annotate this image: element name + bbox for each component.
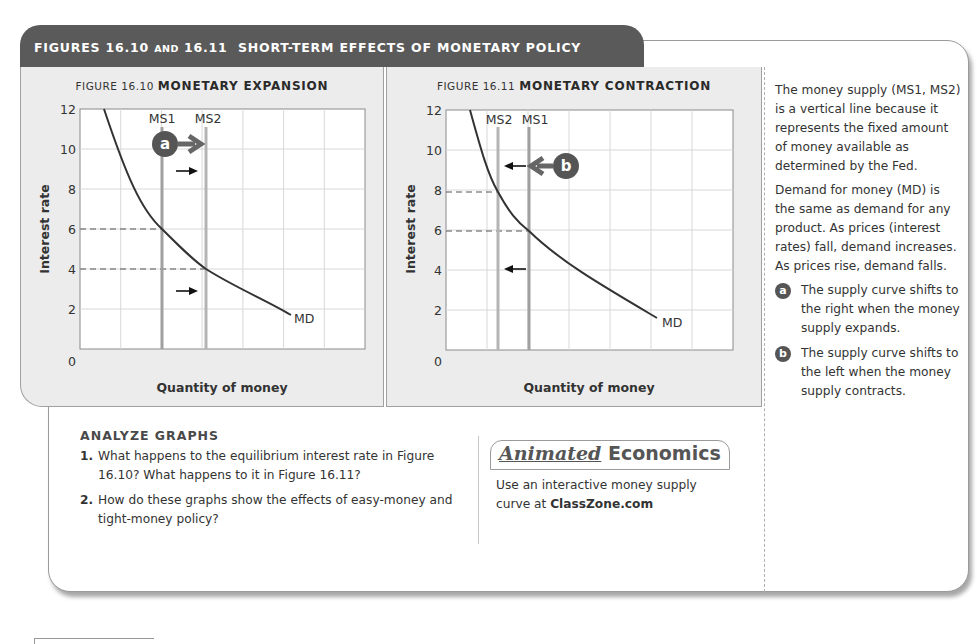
page-corner-mark xyxy=(34,638,154,644)
md-label: MD xyxy=(662,315,682,330)
y-axis-label: Interest rate xyxy=(403,184,418,273)
note-b: b The supply curve shifts to the left wh… xyxy=(775,344,961,401)
y-axis-label: Interest rate xyxy=(37,184,52,273)
title-prefix: FIGURES 16.10 xyxy=(34,40,149,55)
title-fig2: 16.11 xyxy=(184,40,228,55)
callout-a-badge-icon: a xyxy=(775,283,791,299)
svg-text:2: 2 xyxy=(434,303,442,318)
analyze-graphs-section: ANALYZE GRAPHS 1. What happens to the eq… xyxy=(80,428,470,535)
svg-text:10: 10 xyxy=(426,143,442,158)
section-divider xyxy=(478,436,479,544)
title-and: AND xyxy=(154,43,179,54)
ms2-label: MS2 xyxy=(486,112,513,127)
classzone-link[interactable]: ClassZone.com xyxy=(550,497,653,511)
svg-text:6: 6 xyxy=(68,222,76,237)
x-axis-label: Quantity of money xyxy=(156,380,287,395)
svg-text:12: 12 xyxy=(60,102,76,117)
svg-text:10: 10 xyxy=(60,142,76,157)
x-axis-label: Quantity of money xyxy=(523,380,654,395)
title-main: SHORT-TERM EFFECTS OF MONETARY POLICY xyxy=(238,40,581,55)
animated-economics-logo: Animated Economics xyxy=(490,440,730,470)
monetary-contraction-chart: b MS2 MS1 MD 12 10 8 6 4 2 0 Quantity of… xyxy=(387,67,763,407)
svg-text:b: b xyxy=(561,157,572,175)
note-a: a The supply curve shifts to the right w… xyxy=(775,281,961,338)
analyze-heading: ANALYZE GRAPHS xyxy=(80,428,470,443)
question-2: 2. How do these graphs show the effects … xyxy=(80,491,470,529)
svg-text:8: 8 xyxy=(434,183,442,198)
svg-text:0: 0 xyxy=(68,354,76,369)
figure-16-10-panel: FIGURE 16.10 MONETARY EXPANSION xyxy=(20,67,384,407)
animated-economics-box: Animated Economics Use an interactive mo… xyxy=(496,440,716,514)
figure-title-bar: FIGURES 16.10 AND 16.11 SHORT-TERM EFFEC… xyxy=(20,25,644,67)
svg-text:a: a xyxy=(160,135,170,153)
question-1: 1. What happens to the equilibrium inter… xyxy=(80,447,470,485)
callout-b-badge-icon: b xyxy=(775,346,791,362)
animated-economics-text: Use an interactive money supply curve at… xyxy=(496,476,716,514)
svg-text:6: 6 xyxy=(434,223,442,238)
figure-16-11-panel: FIGURE 16.11 MONETARY CONTRACTION xyxy=(386,67,762,407)
svg-text:12: 12 xyxy=(426,103,442,118)
money-demand-paragraph: Demand for money (MD) is the same as dem… xyxy=(775,181,961,276)
svg-text:0: 0 xyxy=(434,354,442,369)
monetary-expansion-chart: a MS1 MS2 MD 12 10 8 6 4 2 0 Quantity of… xyxy=(21,67,385,407)
ms1-label: MS1 xyxy=(149,111,176,126)
svg-text:8: 8 xyxy=(68,182,76,197)
md-label: MD xyxy=(294,311,314,326)
ms2-label: MS2 xyxy=(195,111,222,126)
svg-text:4: 4 xyxy=(68,262,76,277)
explanation-sidebar: The money supply (MS1, MS2) is a vertica… xyxy=(764,67,969,592)
money-supply-paragraph: The money supply (MS1, MS2) is a vertica… xyxy=(775,81,961,176)
svg-text:4: 4 xyxy=(434,263,442,278)
svg-text:2: 2 xyxy=(68,302,76,317)
ms1-label: MS1 xyxy=(522,112,549,127)
